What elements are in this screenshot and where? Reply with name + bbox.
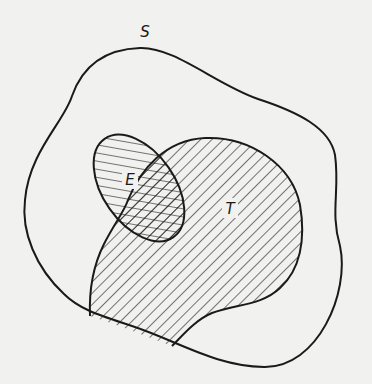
venn-diagram: S E T: [0, 0, 372, 384]
label-s: S: [140, 23, 150, 41]
label-e: E: [125, 171, 135, 189]
